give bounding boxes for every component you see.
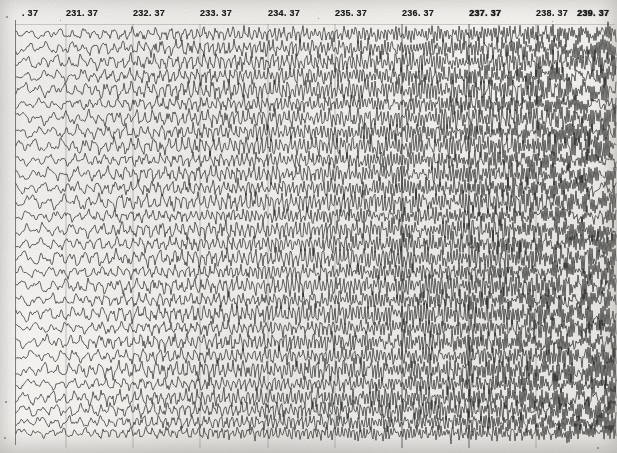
time-code-label: 234. 37 [268,8,300,18]
strip-chart-page: . 37231. 37232. 37233. 37234. 37235. 372… [0,0,617,453]
scan-speck [318,18,319,19]
time-code-label: 232. 37 [133,8,165,18]
channel-trace [16,62,616,89]
time-code-label: 236. 37 [402,8,434,18]
trace-group [16,22,616,444]
channel-trace [16,149,616,172]
trace-svg [0,0,617,453]
scan-speck [6,16,8,18]
scan-speck [60,20,61,21]
scan-speck [552,21,553,22]
time-code-label: 239. 37 [577,8,609,18]
channel-trace [16,384,616,413]
channel-trace [16,35,616,62]
time-code-label: 237. 37 [469,8,501,18]
scan-speck [4,437,6,439]
channel-trace [16,160,616,188]
time-code-header: . 37231. 37232. 37233. 37234. 37235. 372… [0,0,617,26]
channel-trace [16,274,616,300]
channel-trace [16,49,616,77]
trace-plot-area [0,0,617,453]
channel-trace [16,421,616,444]
channel-trace [16,260,616,284]
channel-trace [16,129,616,161]
scan-speck [5,401,7,403]
channel-trace [16,74,616,105]
time-code-label: 231. 37 [66,8,98,18]
time-code-label: 238. 37 [536,8,568,18]
time-code-label: 233. 37 [200,8,232,18]
time-code-label: 235. 37 [335,8,367,18]
time-code-label: . 37 [22,8,38,18]
scan-speck [597,447,599,449]
left-margin-rule [15,20,16,445]
